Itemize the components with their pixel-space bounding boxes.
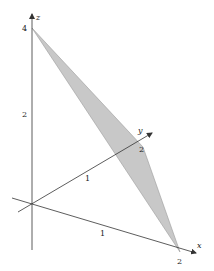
x-tick-1: 1	[100, 229, 105, 238]
y-axis-label: y	[137, 126, 143, 135]
3d-diagram: z y x 4 2 1 2 1 2	[0, 0, 214, 271]
y-tick-2: 2	[139, 145, 144, 154]
y-tick-1: 1	[85, 174, 90, 183]
triangle-plane	[32, 28, 180, 252]
z-axis-label: z	[35, 13, 41, 22]
x-tick-2: 2	[177, 257, 182, 266]
x-axis-label: x	[197, 241, 202, 250]
z-tick-4: 4	[22, 24, 27, 33]
z-tick-2: 2	[22, 110, 27, 119]
